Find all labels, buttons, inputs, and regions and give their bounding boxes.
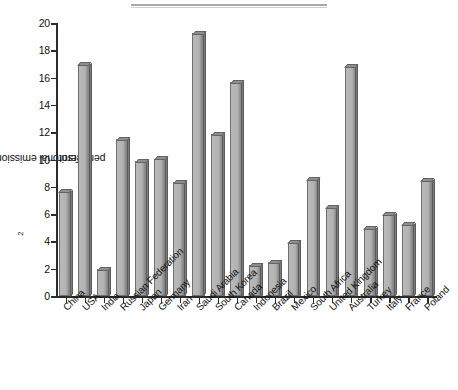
x-axis-tick-label: China <box>61 287 87 313</box>
bar-chart: Territorial emissions in tonnes CO2 per … <box>0 0 458 390</box>
x-axis-tick-label: India <box>99 290 122 313</box>
x-axis-tick-labels: ChinaUSAIndiaRussian FederationJapanGerm… <box>0 0 458 390</box>
